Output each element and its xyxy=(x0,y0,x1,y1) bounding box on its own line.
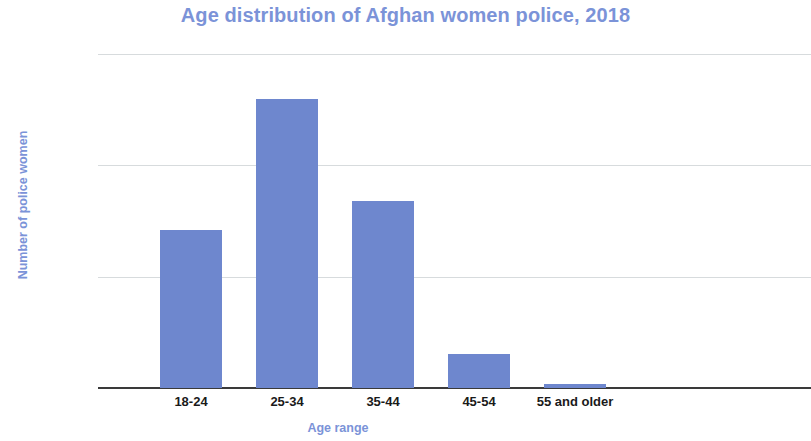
x-axis-tick-label: 55 and older xyxy=(537,394,614,409)
gridline xyxy=(98,54,811,55)
bar xyxy=(352,201,414,388)
bar xyxy=(160,230,222,388)
bar xyxy=(448,354,510,389)
x-axis-tick-label: 35-44 xyxy=(366,394,399,409)
bar xyxy=(256,99,318,388)
y-axis-title: Number of police women xyxy=(16,115,30,295)
x-axis-tick-label: 25-34 xyxy=(270,394,303,409)
chart-title: Age distribution of Afghan women police,… xyxy=(0,4,811,27)
gridline xyxy=(98,165,811,166)
x-axis-title: Age range xyxy=(98,421,578,435)
bar xyxy=(544,384,606,388)
x-axis-tick-label: 18-24 xyxy=(174,394,207,409)
plot-area: 050010001500 18-2425-3435-4445-5455 and … xyxy=(98,54,811,388)
x-axis-tick-label: 45-54 xyxy=(462,394,495,409)
bar-chart: Age distribution of Afghan women police,… xyxy=(0,0,811,441)
